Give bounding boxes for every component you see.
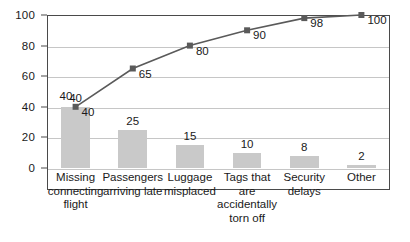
y-tick-label-60: 60: [22, 70, 35, 82]
gridline-0: [48, 169, 389, 170]
line-value-label: 90: [253, 29, 266, 41]
category-label-line: flight: [40, 198, 111, 212]
line-value-label: 98: [310, 17, 323, 29]
line-marker: [358, 12, 364, 18]
x-axis-category-labels: MissingconnectingflightPassengersarrivin…: [47, 171, 390, 242]
line-value-label: 80: [196, 45, 209, 57]
line-value-label: 100: [367, 14, 386, 26]
category-label: Other: [326, 171, 397, 185]
category-label-line: delays: [269, 185, 340, 199]
line-marker: [244, 27, 250, 33]
y-tick-label-0: 0: [28, 162, 35, 174]
y-tick-label-20: 20: [22, 131, 35, 143]
category-label-line: Other: [326, 171, 397, 185]
cumulative-line-svg: [47, 15, 390, 168]
y-tick-label-100: 100: [15, 9, 35, 21]
line-marker: [73, 104, 79, 110]
line-marker: [187, 43, 193, 49]
line-value-label-callout: 40: [60, 90, 73, 102]
pareto-chart: 020406080100 4025151082 406580909810040 …: [0, 0, 410, 242]
y-tick-label-40: 40: [22, 101, 35, 113]
line-value-label: 65: [139, 68, 152, 80]
category-label-line: torn off: [212, 212, 283, 226]
line-marker: [301, 15, 307, 21]
category-label-line: accidentally: [212, 198, 283, 212]
line-marker: [130, 66, 136, 72]
cumulative-line-layer: 406580909810040: [47, 15, 390, 168]
line-value-label: 40: [82, 106, 95, 118]
y-tick-label-80: 80: [22, 40, 35, 52]
